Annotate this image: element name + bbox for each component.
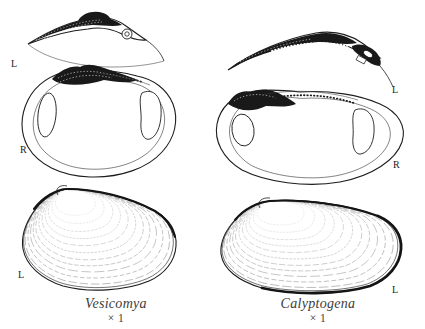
calyptogena-interior-view: R [216,89,403,184]
magnification: × 1 [243,312,393,325]
ventral-edge-line [28,44,164,67]
vesicomya-hinge-view: L [11,12,164,69]
beak-tail-line [146,40,164,61]
ligament-spiral [122,29,132,39]
calyptogena-hinge-view: L [228,32,398,95]
shell-figure-illustration: L R [0,0,425,329]
calyptogena-exterior-view: L [221,198,401,295]
vesicomya-exterior-valve-label: L [18,269,24,280]
figure: L R [0,0,425,329]
vesicomya-caption: Vesicomya × 1 [41,296,191,325]
vesicomya-exterior-view: L [18,186,176,291]
magnification: × 1 [41,312,191,325]
genus-name: Vesicomya [41,296,191,311]
vesicomya-interior-view: R [20,65,176,177]
calyptogena-caption: Calyptogena × 1 [243,296,393,325]
calyptogena-hinge-valve-label: L [392,84,398,95]
vesicomya-hinge-valve-label: L [11,58,17,69]
vesicomya-interior-valve-label: R [20,144,27,155]
calyptogena-exterior-valve-label: L [392,284,398,295]
genus-name: Calyptogena [243,296,393,311]
calyptogena-interior-valve-label: R [393,159,400,170]
